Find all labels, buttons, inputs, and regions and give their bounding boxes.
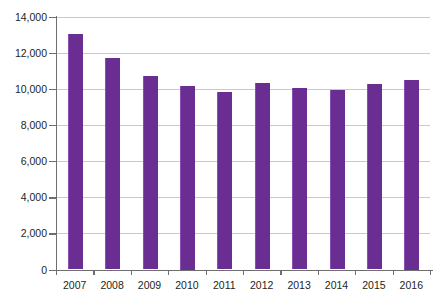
x-tick-mark [280, 270, 281, 275]
bar-chart: 02,0004,0006,0008,00010,00012,00014,000 … [0, 0, 443, 302]
x-tick-mark [56, 270, 57, 275]
bar-2011[interactable] [217, 92, 232, 269]
bar-2014[interactable] [330, 90, 345, 269]
x-tick-mark [355, 270, 356, 275]
x-tick-mark [131, 270, 132, 275]
x-tick-mark [93, 270, 94, 275]
x-tick-label-2016: 2016 [389, 279, 433, 291]
bars-layer: 2007200820092010201120122013201420152016 [0, 0, 443, 302]
bar-2012[interactable] [255, 83, 270, 269]
x-tick-mark [206, 270, 207, 275]
x-tick-mark [168, 270, 169, 275]
x-tick-mark [430, 270, 431, 275]
bar-2015[interactable] [367, 84, 382, 270]
bar-2008[interactable] [105, 58, 120, 269]
x-tick-mark [393, 270, 394, 275]
bar-2009[interactable] [143, 76, 158, 270]
bar-2010[interactable] [180, 86, 195, 269]
x-tick-mark [243, 270, 244, 275]
bar-2007[interactable] [68, 34, 83, 269]
bar-2013[interactable] [292, 88, 307, 270]
x-tick-mark [318, 270, 319, 275]
bar-2016[interactable] [404, 80, 419, 269]
